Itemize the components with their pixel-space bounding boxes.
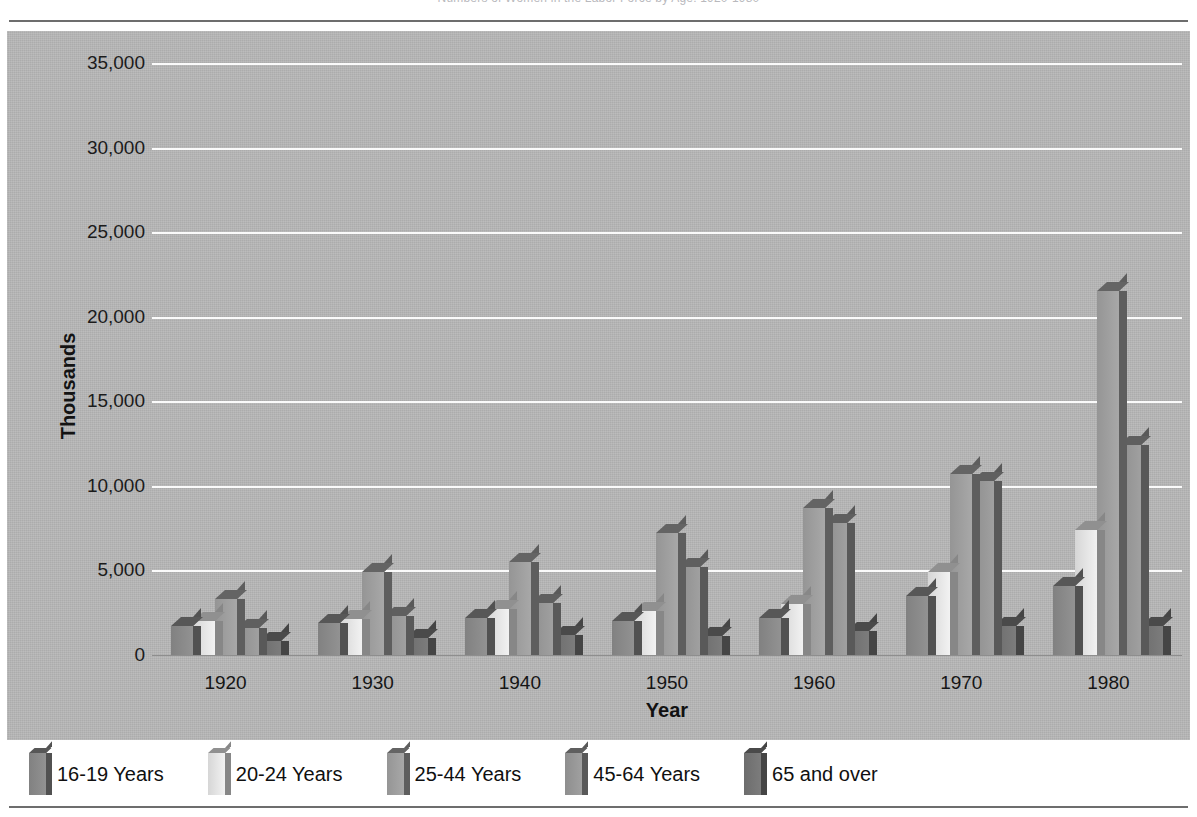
bar-group-1930	[318, 63, 436, 655]
bar-1970-16-19-years	[906, 596, 928, 655]
bar-side-face	[1097, 530, 1105, 655]
bar-group-1950	[612, 63, 730, 655]
legend-swatch-front	[387, 753, 404, 795]
legend-label: 16-19 Years	[57, 763, 164, 786]
bar-front-face	[318, 623, 340, 655]
bar-side-face	[1075, 586, 1083, 655]
bar-1930-16-19-years	[318, 623, 340, 655]
legend-swatch-front	[744, 753, 761, 795]
bar-top-face	[362, 563, 394, 572]
chart-legend: 16-19 Years20-24 Years25-44 Years45-64 Y…	[7, 748, 1190, 800]
bar-side-face	[1141, 445, 1149, 655]
bar-group-1980	[1053, 63, 1171, 655]
bar-side-face	[825, 508, 833, 655]
x-tick-label-1960: 1960	[754, 672, 874, 694]
legend-swatch-side	[582, 753, 588, 795]
legend-swatch	[387, 753, 404, 795]
x-axis-title: Year	[152, 699, 1182, 722]
legend-swatch-side	[761, 753, 767, 795]
legend-label: 25-44 Years	[415, 763, 522, 786]
bar-side-face	[634, 621, 642, 655]
bar-side-face	[847, 523, 855, 655]
bar-top-face	[803, 499, 835, 508]
bar-top-face	[509, 553, 541, 562]
legend-label: 45-64 Years	[593, 763, 700, 786]
legend-swatch-front	[208, 753, 225, 795]
bar-side-face	[259, 628, 267, 655]
figure-title: Numbers of Women in the Labor Force by A…	[0, 0, 1197, 5]
legend-item-16-19-years[interactable]: 16-19 Years	[29, 753, 164, 795]
legend-item-65-and-over[interactable]: 65 and over	[744, 753, 878, 795]
bar-side-face	[928, 596, 936, 655]
legend-item-45-64-years[interactable]: 45-64 Years	[565, 753, 700, 795]
bar-side-face	[972, 474, 980, 655]
legend-swatch-front	[565, 753, 582, 795]
bottom-divider-rule	[9, 806, 1188, 808]
bar-1920-16-19-years	[171, 626, 193, 655]
legend-swatch-side	[404, 753, 410, 795]
bar-series-layer	[7, 31, 1190, 740]
x-tick-label-1930: 1930	[313, 672, 433, 694]
bar-side-face	[575, 635, 583, 655]
legend-swatch-side	[225, 753, 231, 795]
x-tick-label-1970: 1970	[901, 672, 1021, 694]
bar-side-face	[553, 603, 561, 655]
bar-front-face	[906, 596, 928, 655]
legend-label: 65 and over	[772, 763, 878, 786]
bar-side-face	[362, 619, 370, 655]
bar-side-face	[193, 626, 201, 655]
bar-group-1940	[465, 63, 583, 655]
legend-swatch-front	[29, 753, 46, 795]
bar-group-1920	[171, 63, 289, 655]
legend-swatch	[208, 753, 225, 795]
bar-side-face	[237, 599, 245, 655]
legend-swatch	[565, 753, 582, 795]
bar-side-face	[994, 481, 1002, 655]
chart-plot-area: Thousands 05,00010,00015,00020,00025,000…	[7, 31, 1190, 740]
bar-side-face	[1163, 626, 1171, 655]
bar-side-face	[803, 604, 811, 655]
bar-side-face	[281, 641, 289, 655]
legend-label: 20-24 Years	[236, 763, 343, 786]
bar-side-face	[509, 609, 517, 655]
bar-1940-16-19-years	[465, 618, 487, 655]
bar-side-face	[1016, 626, 1024, 655]
legend-swatch	[29, 753, 46, 795]
bar-side-face	[656, 611, 664, 655]
bar-front-face	[171, 626, 193, 655]
bar-side-face	[722, 636, 730, 655]
bar-side-face	[531, 562, 539, 655]
legend-swatch	[744, 753, 761, 795]
bar-top-face	[1097, 282, 1129, 291]
x-tick-label-1940: 1940	[460, 672, 580, 694]
bar-1980-16-19-years	[1053, 586, 1075, 655]
bar-side-face	[781, 618, 789, 655]
bar-group-1970	[906, 63, 1024, 655]
bar-front-face	[465, 618, 487, 655]
bar-1960-16-19-years	[759, 618, 781, 655]
bar-1950-16-19-years	[612, 621, 634, 655]
bar-side-face	[428, 638, 436, 655]
bar-top-face	[950, 465, 982, 474]
bar-side-face	[678, 533, 686, 655]
bar-side-face	[950, 572, 958, 655]
x-tick-label-1980: 1980	[1048, 672, 1168, 694]
bar-side-face	[215, 621, 223, 655]
x-tick-label-1920: 1920	[166, 672, 286, 694]
bar-side-face	[700, 567, 708, 655]
x-tick-label-1950: 1950	[607, 672, 727, 694]
bar-side-face	[487, 618, 495, 655]
bar-side-face	[869, 631, 877, 655]
bar-side-face	[340, 623, 348, 655]
bar-side-face	[406, 616, 414, 655]
bar-front-face	[1053, 586, 1075, 655]
legend-item-25-44-years[interactable]: 25-44 Years	[387, 753, 522, 795]
bar-side-face	[384, 572, 392, 655]
top-divider-rule	[9, 20, 1188, 22]
bar-group-1960	[759, 63, 877, 655]
bar-side-face	[1119, 291, 1127, 655]
bar-front-face	[759, 618, 781, 655]
bar-top-face	[656, 524, 688, 533]
legend-item-20-24-years[interactable]: 20-24 Years	[208, 753, 343, 795]
legend-swatch-side	[46, 753, 52, 795]
